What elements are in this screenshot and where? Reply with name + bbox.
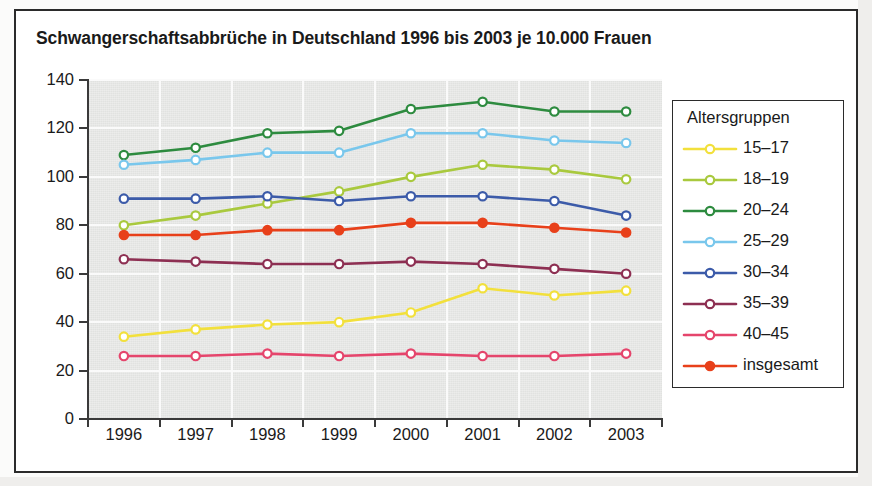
x-axis-tick-label: 1998 bbox=[231, 425, 303, 444]
legend-item[interactable]: 25–29 bbox=[681, 228, 841, 256]
data-point bbox=[335, 187, 343, 195]
data-point bbox=[263, 226, 271, 234]
data-point bbox=[407, 219, 415, 227]
legend-title: Altersgruppen bbox=[687, 108, 790, 127]
data-point bbox=[550, 136, 558, 144]
legend-item[interactable]: 18–19 bbox=[681, 166, 841, 194]
data-point bbox=[335, 197, 343, 205]
y-axis-tick-label: 140 bbox=[28, 70, 74, 89]
x-axis-tick-label: 1997 bbox=[160, 425, 232, 444]
data-point bbox=[478, 129, 486, 137]
x-axis-tick-label: 2001 bbox=[447, 425, 519, 444]
legend-item-label: 18–19 bbox=[743, 169, 789, 188]
y-axis-tick bbox=[79, 79, 88, 81]
data-point bbox=[120, 231, 128, 239]
data-point bbox=[478, 260, 486, 268]
data-series-layer bbox=[88, 80, 662, 419]
data-point bbox=[407, 257, 415, 265]
data-point bbox=[120, 194, 128, 202]
legend-swatch-icon bbox=[681, 259, 739, 287]
data-point bbox=[478, 219, 486, 227]
legend-swatch-icon bbox=[681, 352, 739, 380]
legend-item-label: 35–39 bbox=[743, 293, 789, 312]
data-point bbox=[550, 291, 558, 299]
data-point bbox=[335, 318, 343, 326]
data-point bbox=[550, 165, 558, 173]
y-axis-tick bbox=[79, 127, 88, 129]
data-point bbox=[622, 175, 630, 183]
legend-item[interactable]: 30–34 bbox=[681, 259, 841, 287]
legend-swatch-icon bbox=[681, 197, 739, 225]
data-point bbox=[263, 320, 271, 328]
data-point bbox=[407, 349, 415, 357]
data-point bbox=[550, 352, 558, 360]
x-axis-tick-label: 2000 bbox=[375, 425, 447, 444]
legend-item[interactable]: insgesamt bbox=[681, 352, 841, 380]
y-axis-tick-label: 80 bbox=[28, 215, 74, 234]
data-point bbox=[335, 127, 343, 135]
data-point bbox=[622, 349, 630, 357]
y-axis-tick-label: 20 bbox=[28, 361, 74, 380]
legend-item-label: 20–24 bbox=[743, 200, 789, 219]
data-point bbox=[120, 221, 128, 229]
legend-item[interactable]: 20–24 bbox=[681, 197, 841, 225]
x-axis-tick-label: 2003 bbox=[590, 425, 662, 444]
legend-swatch-icon bbox=[681, 228, 739, 256]
data-point bbox=[263, 192, 271, 200]
data-point bbox=[335, 226, 343, 234]
data-point bbox=[191, 257, 199, 265]
data-point bbox=[263, 260, 271, 268]
y-axis-tick bbox=[79, 273, 88, 275]
data-point bbox=[622, 270, 630, 278]
data-point bbox=[622, 228, 630, 236]
y-axis-tick-label: 100 bbox=[28, 167, 74, 186]
data-point bbox=[478, 98, 486, 106]
data-point bbox=[622, 211, 630, 219]
data-point bbox=[622, 286, 630, 294]
legend-swatch-icon bbox=[681, 321, 739, 349]
figure: Schwangerschaftsabbrüche in Deutschland … bbox=[0, 0, 872, 486]
data-point bbox=[263, 148, 271, 156]
x-axis-tick-label: 2002 bbox=[518, 425, 590, 444]
data-point bbox=[407, 105, 415, 113]
series-insgesamt bbox=[120, 219, 631, 240]
data-point bbox=[263, 129, 271, 137]
data-point bbox=[478, 352, 486, 360]
data-point bbox=[120, 161, 128, 169]
data-point bbox=[622, 107, 630, 115]
data-point bbox=[550, 224, 558, 232]
legend-item-label: 25–29 bbox=[743, 231, 789, 250]
data-point bbox=[191, 144, 199, 152]
y-axis-tick bbox=[79, 370, 88, 372]
legend-item-label: insgesamt bbox=[743, 355, 818, 374]
data-point bbox=[407, 308, 415, 316]
legend-item[interactable]: 15–17 bbox=[681, 135, 841, 163]
data-point bbox=[550, 107, 558, 115]
legend-item[interactable]: 40–45 bbox=[681, 321, 841, 349]
legend-item[interactable]: 35–39 bbox=[681, 290, 841, 318]
data-point bbox=[407, 192, 415, 200]
y-axis-tick-label: 120 bbox=[28, 118, 74, 137]
data-point bbox=[191, 325, 199, 333]
data-point bbox=[191, 352, 199, 360]
data-point bbox=[120, 151, 128, 159]
data-point bbox=[191, 211, 199, 219]
data-point bbox=[120, 255, 128, 263]
data-point bbox=[120, 332, 128, 340]
x-axis-tick-label: 1999 bbox=[303, 425, 375, 444]
data-point bbox=[622, 139, 630, 147]
series-35-39 bbox=[120, 255, 631, 278]
data-point bbox=[120, 352, 128, 360]
data-point bbox=[407, 129, 415, 137]
data-point bbox=[478, 284, 486, 292]
legend-swatch-icon bbox=[681, 135, 739, 163]
legend-swatch-icon bbox=[681, 166, 739, 194]
series-20-24 bbox=[120, 98, 631, 160]
y-axis-tick bbox=[79, 321, 88, 323]
data-point bbox=[263, 349, 271, 357]
legend-item-label: 40–45 bbox=[743, 324, 789, 343]
data-point bbox=[478, 192, 486, 200]
y-axis-tick-label: 60 bbox=[28, 264, 74, 283]
data-point bbox=[550, 265, 558, 273]
data-point bbox=[550, 197, 558, 205]
